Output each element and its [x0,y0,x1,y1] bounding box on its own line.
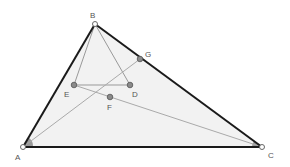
point-c[interactable] [260,145,265,150]
point-b[interactable] [93,22,98,27]
point-f[interactable] [107,94,113,100]
label-g: G [145,50,151,59]
point-e[interactable] [71,82,77,88]
point-a[interactable] [21,145,26,150]
label-a: A [15,153,21,162]
label-b: B [90,11,95,20]
label-e: E [64,90,69,99]
point-d[interactable] [127,82,133,88]
label-d: D [132,90,138,99]
label-c: C [268,151,274,160]
point-g[interactable] [137,56,143,62]
geometry-diagram: B A C G E D F [0,0,290,167]
label-f: F [107,103,112,112]
